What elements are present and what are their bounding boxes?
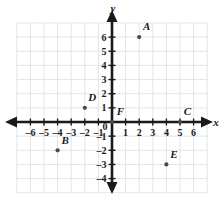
data-point-d (83, 106, 87, 110)
y-axis-tick-label: 2 (102, 88, 107, 99)
data-point-label-a: A (142, 20, 150, 32)
y-axis-tick-label: 3 (102, 74, 107, 85)
x-axis-tick-label: 1 (123, 127, 128, 138)
y-axis-tick-label: –3 (96, 159, 107, 170)
y-axis-tick-label: 5 (102, 46, 107, 57)
data-point-label-c: C (184, 105, 192, 117)
data-point-label-d: D (87, 91, 96, 103)
x-axis-tick-label: 6 (191, 127, 196, 138)
y-axis-tick-label: –4 (96, 173, 107, 184)
data-point-label-f: F (116, 105, 125, 117)
data-point-a (137, 35, 141, 39)
y-axis-tick-label: 1 (102, 102, 107, 113)
data-point-label-e: E (169, 148, 177, 160)
data-point-b (56, 148, 60, 152)
data-point-label-b: B (60, 134, 68, 146)
x-axis-tick-label: –5 (38, 127, 49, 138)
data-point-f (110, 120, 114, 124)
x-axis-tick-label: –2 (79, 127, 90, 138)
x-axis-name: x (212, 116, 219, 128)
x-axis-tick-label: 5 (178, 127, 183, 138)
y-axis-name: y (109, 2, 116, 14)
x-axis-tick-label: 2 (137, 127, 142, 138)
y-axis-tick-label: 4 (102, 60, 107, 71)
x-axis-arrow-left (5, 117, 17, 128)
coordinate-plane-figure: –6–5–4–3–2–10123456654321–1–2–3–4 ABCDEF… (0, 0, 224, 200)
y-axis-tick-label: 6 (102, 32, 107, 43)
y-axis-tick-label: –1 (96, 131, 107, 142)
data-point-e (164, 162, 168, 166)
x-axis-tick-label: 3 (150, 127, 155, 138)
x-axis-tick-label: –6 (24, 127, 35, 138)
y-axis-arrow-down (107, 182, 118, 194)
y-axis-tick-label: –2 (96, 145, 107, 156)
x-axis-tick-label: 4 (164, 127, 169, 138)
data-point-c (178, 120, 182, 124)
coordinate-plane-svg: –6–5–4–3–2–10123456654321–1–2–3–4 ABCDEF… (0, 0, 224, 200)
